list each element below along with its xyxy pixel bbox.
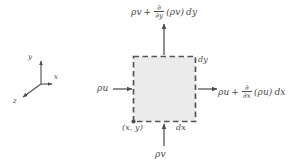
top-flux-differential: dy	[186, 7, 197, 17]
width-dimension-label: dx	[176, 124, 186, 132]
top-flux-base: ρv	[131, 7, 142, 17]
right-flux-partial-denominator: ∂x	[242, 91, 252, 100]
top-flux-operand: (ρv)	[166, 7, 184, 17]
coordinate-axes-triad	[23, 61, 52, 97]
figure-canvas: ρv+∂∂y(ρv)dy ρu+∂∂x(ρu)dx ρu ρv dx dy (x…	[0, 0, 302, 167]
axis-label-x: x	[54, 73, 58, 81]
top-flux-partial-numerator: ∂	[154, 4, 164, 12]
right-flux-base: ρu	[218, 87, 229, 97]
right-flux-partial-fraction: ∂∂x	[242, 84, 252, 100]
axis-z-line	[23, 84, 41, 97]
height-dimension-label: dy	[198, 56, 208, 64]
top-flux-partial-fraction: ∂∂y	[154, 4, 164, 20]
axis-label-z: z	[13, 97, 17, 105]
bottom-flux-label: ρv	[155, 150, 166, 159]
right-flux-partial-numerator: ∂	[242, 84, 252, 92]
control-volume-element	[134, 57, 196, 122]
right-flux-differential: dx	[274, 87, 285, 97]
right-flux-plus: +	[231, 87, 239, 97]
top-flux-label: ρv+∂∂y(ρv)dy	[131, 4, 197, 20]
right-flux-label: ρu+∂∂x(ρu)dx	[218, 84, 286, 100]
right-flux-operand: (ρu)	[254, 87, 273, 97]
corner-coordinate-label: (x, y)	[122, 124, 143, 132]
top-flux-partial-denominator: ∂y	[154, 11, 164, 20]
axis-label-y: y	[28, 53, 32, 61]
top-flux-plus: +	[144, 7, 152, 17]
left-flux-label: ρu	[97, 84, 108, 93]
